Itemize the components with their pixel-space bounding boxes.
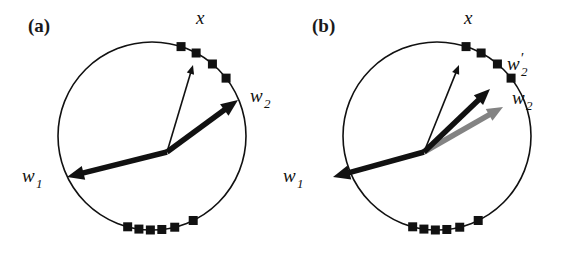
label-w2-a: w [250,85,263,106]
panel-b: xw1w′2w2(b) [283,7,533,234]
data-point-marker-a-7 [157,225,166,234]
figure-container: xw1w2(a)xw1w′2w2(b) [0,0,568,258]
data-point-marker-a-2 [208,59,217,68]
vector-w1-a-shaft [82,152,167,173]
vector-w1-a-head [67,166,85,180]
label-x-b: x [463,7,473,28]
data-point-marker-b-7 [442,225,451,234]
data-point-marker-b-5 [419,225,428,234]
label-w1-subscript-a: 1 [36,176,43,191]
label-w2-b: w [512,87,525,108]
data-point-marker-b-6 [431,225,440,234]
data-point-marker-a-8 [170,223,179,232]
vector-diagram-svg: xw1w2(a)xw1w′2w2(b) [0,0,568,258]
vector-x-a-head [187,65,194,75]
label-w2prime-subscript-b: 2 [521,64,528,79]
label-w2prime-b: w [507,53,520,74]
data-point-marker-b-1 [477,49,486,58]
vector-w1-b [333,152,424,179]
data-point-marker-a-5 [134,225,143,234]
data-point-marker-b-2 [493,59,502,68]
data-point-marker-b-8 [455,223,464,232]
data-point-marker-b-3 [507,74,516,83]
data-point-marker-b-4 [408,222,417,231]
panel-a: xw1w2(a) [22,7,271,234]
labels-a: xw1w2 [22,7,271,191]
label-w2-subscript-b: 2 [526,98,533,113]
data-point-marker-a-0 [177,42,186,51]
data-point-marker-b-0 [462,42,471,51]
vector-x-b-head [452,65,459,75]
label-x-a: x [195,7,205,28]
data-point-marker-a-9 [189,216,198,225]
vector-w2-a-shaft [167,109,226,152]
data-point-marker-a-3 [222,74,231,83]
data-point-marker-a-4 [123,222,132,231]
unit-circle-a [58,42,246,230]
data-point-marker-a-1 [192,49,201,58]
vector-w2-a [167,100,238,152]
panel-label-a: (a) [28,15,50,37]
label-w1-subscript-b: 1 [297,176,304,191]
data-point-marker-a-6 [146,225,155,234]
vector-w1-b-shaft [347,152,424,173]
label-w2-subscript-a: 2 [264,96,271,111]
label-w1-b: w [283,165,296,186]
panel-label-b: (b) [312,15,335,37]
vector-w1-a [67,152,167,180]
data-point-marker-b-9 [474,216,483,225]
label-w1-a: w [22,165,35,186]
